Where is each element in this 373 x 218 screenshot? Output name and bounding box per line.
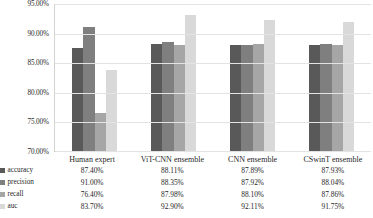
bar-accuracy[interactable] [309,45,320,151]
y-tick-label: 90.00% [27,30,49,38]
grouped-bar-chart-figure: 95.00%90.00%85.00%80.00%75.00%70.00% Hum… [0,0,373,218]
legend-swatch-icon [0,192,5,197]
y-tick-label: 75.00% [27,118,49,126]
bar-accuracy[interactable] [230,45,241,151]
legend-label: accuracy [8,166,34,174]
table-row: auc83.70%92.90%92.11%91.75% [0,200,373,212]
legend-label: auc [8,202,18,210]
table-cell: 87.92% [213,176,293,188]
gridline [55,63,371,64]
table-cell: 76.40% [52,188,132,200]
table-cell: 88.35% [132,176,212,188]
bar-group [55,4,134,151]
legend-swatch-icon [0,204,5,209]
gridline [55,4,371,5]
legend-item-accuracy[interactable]: accuracy [0,164,52,176]
table-cell: 87.93% [293,164,373,176]
bar-recall[interactable] [174,45,185,151]
table-column-header: CSwinT ensemble [293,152,373,164]
y-tick-label: 85.00% [27,59,49,67]
legend-item-precision[interactable]: precision [0,176,52,188]
table-column-header: CNN ensemble [213,152,293,164]
bar-group [213,4,292,151]
gridline [55,93,371,94]
table-cell: 88.04% [293,176,373,188]
legend-swatch-icon [0,168,5,173]
table-cell: 87.89% [213,164,293,176]
plot-area [54,4,371,152]
table-cell: 83.70% [52,200,132,212]
bar-auc[interactable] [106,70,117,151]
table-row: precision91.00%88.35%87.92%88.04% [0,176,373,188]
bar-groups [55,4,371,151]
bar-group [134,4,213,151]
bar-accuracy[interactable] [151,44,162,151]
table-row: recall76.40%87.98%88.10%87.86% [0,188,373,200]
table-cell: 91.00% [52,176,132,188]
bar-group-inner [309,4,355,151]
bar-group-inner [230,4,276,151]
table-column-header: ViT-CNN ensemble [132,152,212,164]
bar-group-inner [151,4,197,151]
table-cell: 88.10% [213,188,293,200]
table-cell: 92.11% [213,200,293,212]
table-cell: 87.86% [293,188,373,200]
y-axis: 95.00%90.00%85.00%80.00%75.00%70.00% [0,4,52,152]
y-tick-label: 95.00% [27,0,49,8]
legend-label: precision [8,178,34,186]
table-cell: 87.40% [52,164,132,176]
bar-precision[interactable] [320,44,331,151]
legend-item-auc[interactable]: auc [0,200,52,212]
bar-precision[interactable] [241,45,252,151]
y-tick-label: 80.00% [27,89,49,97]
bar-precision[interactable] [162,42,173,151]
table-corner-cell [0,152,52,164]
table-column-header: Human expert [52,152,132,164]
bar-recall[interactable] [253,44,264,151]
bar-auc[interactable] [264,20,275,151]
bar-group-inner [72,4,118,151]
legend-item-recall[interactable]: recall [0,188,52,200]
bar-precision[interactable] [83,27,94,151]
table-cell: 92.90% [132,200,212,212]
table-cell: 87.98% [132,188,212,200]
plot-region: 95.00%90.00%85.00%80.00%75.00%70.00% [0,4,373,152]
table-cell: 91.75% [293,200,373,212]
data-table: Human expertViT-CNN ensembleCNN ensemble… [0,152,373,212]
bar-auc[interactable] [343,22,354,151]
legend-label: recall [8,190,24,198]
legend-swatch-icon [0,180,5,185]
bar-auc[interactable] [185,15,196,151]
table-cell: 88.11% [132,164,212,176]
table-row: accuracy87.40%88.11%87.89%87.93% [0,164,373,176]
gridline [55,122,371,123]
gridline [55,34,371,35]
bar-recall[interactable] [95,113,106,151]
table-body: accuracy87.40%88.11%87.89%87.93%precisio… [0,164,373,212]
bar-recall[interactable] [332,45,343,151]
table-header-row: Human expertViT-CNN ensembleCNN ensemble… [0,152,373,164]
bar-group [292,4,371,151]
